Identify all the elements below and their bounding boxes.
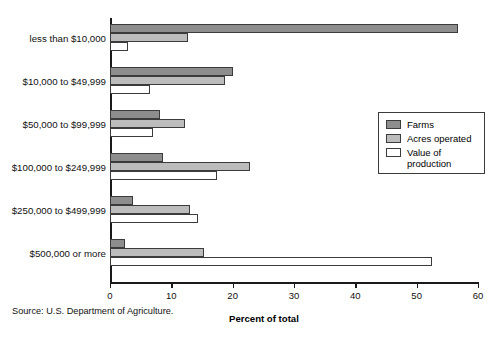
bar-value [110,214,198,223]
x-tick-label: 10 [166,290,177,301]
bar-farms [110,153,163,162]
legend-swatch-farms-icon [386,120,401,129]
category-label: $10,000 to $49,999 [23,77,107,87]
x-tick [478,282,479,288]
x-tick-label: 60 [473,290,484,301]
legend-swatch-acres-icon [386,134,401,143]
x-tick-label: 50 [411,290,422,301]
bar-acres [110,33,188,42]
x-tick [110,282,111,288]
bar-value [110,128,153,137]
bar-acres [110,162,250,171]
legend-label-value-of-production: Value of production [407,147,484,169]
bar-acres [110,248,204,257]
x-tick [355,282,356,288]
legend-swatch-value-icon [386,148,401,157]
bar-chart: 0102030405060 less than $10,000$10,000 t… [0,0,500,339]
x-tick-label: 40 [350,290,361,301]
category-label: less than $10,000 [30,34,106,44]
legend-label-farms: Farms [407,119,434,130]
bar-value [110,42,128,51]
x-tick [417,282,418,288]
chart-legend: Farms Acres operated Value of production [378,112,485,174]
bar-farms [110,110,160,119]
category-label: $100,000 to $249,999 [12,163,106,173]
x-tick-label: 0 [107,290,112,301]
bar-value [110,85,150,94]
category-label: $500,000 or more [30,249,106,259]
x-axis-title: Percent of total [229,313,299,324]
category-label: $50,000 to $99,999 [23,120,107,130]
source-note: Source: U.S. Department of Agriculture. [12,306,173,316]
bar-farms [110,24,458,33]
legend-item-value-of-production: Value of production [386,147,484,169]
bar-farms [110,196,133,205]
legend-label-acres-operated: Acres operated [407,133,471,144]
legend-item-acres-operated: Acres operated [386,133,484,144]
bar-acres [110,76,225,85]
bar-farms [110,67,233,76]
bar-acres [110,205,190,214]
bar-farms [110,239,125,248]
category-label: $250,000 to $499,999 [12,206,106,216]
legend-item-farms: Farms [386,119,484,130]
x-tick [294,282,295,288]
x-tick [233,282,234,288]
bar-acres [110,119,185,128]
bar-value [110,257,432,266]
x-tick-label: 20 [227,290,238,301]
x-tick [171,282,172,288]
bar-value [110,171,217,180]
x-tick-label: 30 [289,290,300,301]
